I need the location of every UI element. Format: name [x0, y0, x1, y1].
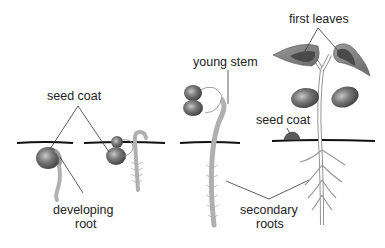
stage-4-seedling — [273, 44, 370, 225]
stage-3-seedling — [183, 85, 224, 225]
cotyledon-left — [290, 86, 321, 110]
label-seed-coat-left: seed coat — [47, 90, 101, 103]
young-stem-shape — [211, 100, 224, 225]
label-developing-root-line2: root — [75, 218, 97, 231]
stage-1-seed — [36, 147, 60, 200]
label-secondary-roots-line1: secondary — [240, 204, 298, 217]
cotyledon-bottom — [183, 100, 203, 116]
cotyledon-right — [328, 83, 361, 111]
label-developing-root-line1: developing — [53, 204, 113, 217]
developing-root-shape — [56, 162, 60, 200]
label-seed-coat-right: seed coat — [256, 114, 310, 127]
germination-diagram: seed coat developing root young stem fir… — [0, 0, 385, 248]
label-first-leaves: first leaves — [289, 13, 349, 26]
cotyledon-top — [184, 85, 202, 101]
label-young-stem: young stem — [193, 56, 258, 69]
label-secondary-roots-line2: roots — [256, 218, 284, 231]
shed-seed-coat — [284, 132, 300, 140]
stage-2-seed — [106, 132, 146, 190]
